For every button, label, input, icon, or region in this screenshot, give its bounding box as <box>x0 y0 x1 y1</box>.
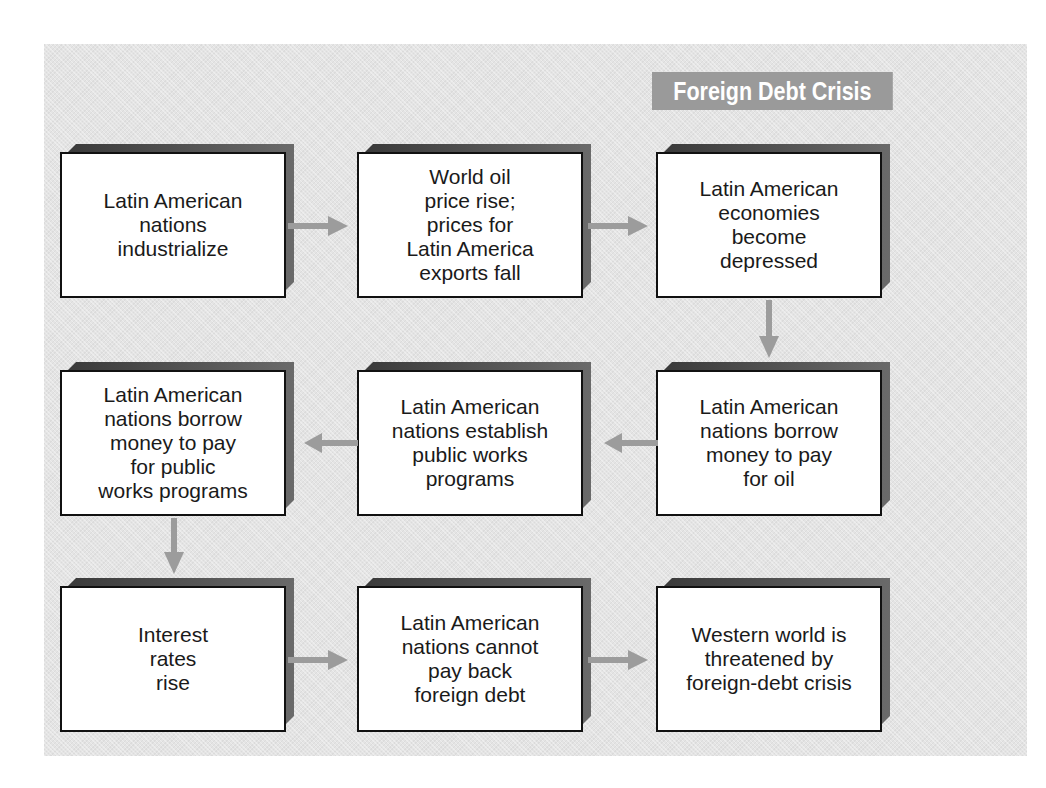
diagram-title: Foreign Debt Crisis <box>652 72 893 110</box>
box-body: Latin American nations industrialize <box>60 152 286 298</box>
box-body: Latin American nations borrow money to p… <box>60 370 286 516</box>
box-label: Interest rates rise <box>132 623 214 695</box>
arrow-right-icon <box>588 650 648 670</box>
box-label: Latin American nations establish public … <box>386 395 554 491</box>
box-label: Latin American nations cannot pay back f… <box>395 611 546 707</box>
box-label: Latin American economies become depresse… <box>694 177 845 273</box>
box-body: Western world is threatened by foreign-d… <box>656 586 882 732</box>
flow-box-step-5: Latin American nations establish public … <box>357 370 593 524</box>
flow-box-step-8: Latin American nations cannot pay back f… <box>357 586 593 740</box>
box-label: Latin American nations industrialize <box>98 189 249 261</box>
arrow-right-icon <box>288 650 348 670</box>
box-body: Latin American nations establish public … <box>357 370 583 516</box>
arrow-left-icon <box>304 433 358 453</box>
box-body: Interest rates rise <box>60 586 286 732</box>
box-body: Latin American nations borrow money to p… <box>656 370 882 516</box>
box-body: Latin American nations cannot pay back f… <box>357 586 583 732</box>
arrow-left-icon <box>604 433 658 453</box>
box-body: Latin American economies become depresse… <box>656 152 882 298</box>
arrow-down-icon <box>164 518 184 574</box>
arrow-down-icon <box>759 300 779 358</box>
flow-box-step-6: Latin American nations borrow money to p… <box>60 370 296 524</box>
box-label: World oil price rise; prices for Latin A… <box>400 165 539 285</box>
box-label: Western world is threatened by foreign-d… <box>680 623 858 695</box>
box-label: Latin American nations borrow money to p… <box>92 383 253 503</box>
flow-box-step-9: Western world is threatened by foreign-d… <box>656 586 892 740</box>
flow-box-step-4: Latin American nations borrow money to p… <box>656 370 892 524</box>
flow-box-step-3: Latin American economies become depresse… <box>656 152 892 306</box>
flow-box-step-1: Latin American nations industrialize <box>60 152 296 306</box>
box-label: Latin American nations borrow money to p… <box>694 395 845 491</box>
flow-box-step-7: Interest rates rise <box>60 586 296 740</box>
arrow-right-icon <box>588 216 648 236</box>
arrow-right-icon <box>288 216 348 236</box>
flow-box-step-2: World oil price rise; prices for Latin A… <box>357 152 593 306</box>
box-body: World oil price rise; prices for Latin A… <box>357 152 583 298</box>
